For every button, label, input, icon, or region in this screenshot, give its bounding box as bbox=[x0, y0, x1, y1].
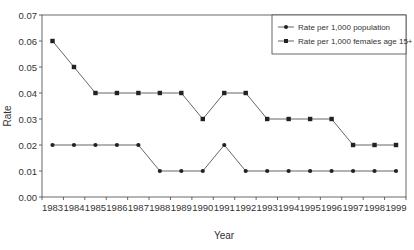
data-point-marker bbox=[308, 169, 312, 173]
data-point-marker bbox=[286, 117, 290, 121]
data-point-marker bbox=[50, 39, 54, 43]
chart-canvas: 0.000.010.020.030.040.050.060.07 1983198… bbox=[0, 0, 414, 250]
y-axis: 0.000.010.020.030.040.050.060.07 bbox=[19, 10, 43, 203]
data-point-marker bbox=[265, 117, 269, 121]
data-point-marker bbox=[158, 91, 162, 95]
data-point-marker bbox=[136, 143, 140, 147]
y-tick-label: 0.07 bbox=[19, 10, 38, 21]
data-point-marker bbox=[308, 117, 312, 121]
x-tick-label: 1983 bbox=[42, 202, 63, 213]
x-tick-label: 1984 bbox=[63, 202, 84, 213]
data-point-marker bbox=[136, 91, 140, 95]
x-tick-label: 1989 bbox=[171, 202, 192, 213]
x-tick-label: 1995 bbox=[300, 202, 321, 213]
y-tick-label: 0.05 bbox=[19, 62, 38, 73]
x-tick-label: 1994 bbox=[278, 202, 299, 213]
data-point-marker bbox=[372, 169, 376, 173]
data-point-marker bbox=[351, 169, 355, 173]
x-tick-label: 1988 bbox=[149, 202, 170, 213]
data-point-marker bbox=[372, 143, 376, 147]
data-point-marker bbox=[244, 169, 248, 173]
x-axis: 1983198419851986198719881989199019911992… bbox=[42, 197, 407, 213]
data-point-marker bbox=[394, 143, 398, 147]
y-axis-label: Rate bbox=[2, 105, 13, 127]
data-point-marker bbox=[115, 91, 119, 95]
data-point-marker bbox=[93, 143, 97, 147]
x-tick-label: 1997 bbox=[342, 202, 363, 213]
data-point-marker bbox=[115, 143, 119, 147]
data-point-marker bbox=[394, 169, 398, 173]
data-point-marker bbox=[158, 169, 162, 173]
series-2 bbox=[50, 39, 398, 147]
x-tick-label: 1996 bbox=[321, 202, 342, 213]
data-point-marker bbox=[244, 91, 248, 95]
legend-box bbox=[272, 15, 406, 54]
x-tick-label: 1985 bbox=[85, 202, 106, 213]
data-point-marker bbox=[72, 143, 76, 147]
legend-marker bbox=[284, 39, 288, 43]
data-point-marker bbox=[179, 169, 183, 173]
data-point-marker bbox=[351, 143, 355, 147]
legend-marker bbox=[284, 25, 288, 29]
series-1 bbox=[50, 143, 398, 173]
x-axis-label: Year bbox=[214, 230, 235, 241]
x-tick-label: 1999 bbox=[385, 202, 406, 213]
data-point-marker bbox=[329, 169, 333, 173]
x-tick-label: 1992 bbox=[235, 202, 256, 213]
line-chart: 0.000.010.020.030.040.050.060.07 1983198… bbox=[0, 0, 414, 250]
data-point-marker bbox=[201, 169, 205, 173]
x-tick-label: 1993 bbox=[257, 202, 278, 213]
data-point-marker bbox=[72, 65, 76, 69]
y-tick-label: 0.06 bbox=[19, 36, 38, 47]
x-tick-label: 1987 bbox=[128, 202, 149, 213]
data-point-marker bbox=[50, 143, 54, 147]
data-point-marker bbox=[222, 91, 226, 95]
legend: Rate per 1,000 populationRate per 1,000 … bbox=[272, 15, 413, 54]
data-point-marker bbox=[222, 143, 226, 147]
y-tick-label: 0.03 bbox=[19, 114, 38, 125]
x-tick-label: 1986 bbox=[106, 202, 127, 213]
x-tick-label: 1990 bbox=[192, 202, 213, 213]
data-point-marker bbox=[179, 91, 183, 95]
y-tick-label: 0.02 bbox=[19, 140, 38, 151]
series-line bbox=[53, 145, 397, 171]
y-tick-label: 0.00 bbox=[19, 192, 38, 203]
legend-label: Rate per 1,000 population bbox=[298, 23, 390, 32]
legend-label: Rate per 1,000 females age 15+ bbox=[298, 37, 413, 46]
series-layer bbox=[50, 39, 398, 173]
x-tick-label: 1998 bbox=[364, 202, 385, 213]
y-tick-label: 0.01 bbox=[19, 166, 38, 177]
data-point-marker bbox=[93, 91, 97, 95]
data-point-marker bbox=[201, 117, 205, 121]
x-tick-label: 1991 bbox=[214, 202, 235, 213]
y-tick-label: 0.04 bbox=[19, 88, 38, 99]
data-point-marker bbox=[287, 169, 291, 173]
data-point-marker bbox=[329, 117, 333, 121]
data-point-marker bbox=[265, 169, 269, 173]
